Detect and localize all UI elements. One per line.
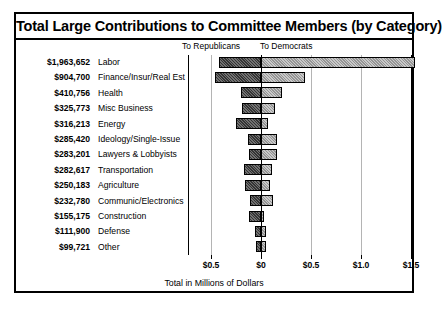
bar-segment-democrats[interactable]: [261, 241, 266, 252]
bar-row[interactable]: [188, 209, 412, 224]
bar-row[interactable]: [188, 55, 412, 70]
bar-segment-democrats[interactable]: [261, 72, 305, 83]
category-total-value: $232,780: [16, 194, 90, 209]
bar-segment-democrats[interactable]: [261, 149, 277, 160]
category-total-value: $325,773: [16, 101, 90, 116]
category-row: $410,756Health: [16, 86, 188, 101]
axis-tick: [411, 255, 412, 259]
bar-segment-democrats[interactable]: [261, 164, 272, 175]
bar-row[interactable]: [188, 132, 412, 147]
category-total-value: $99,721: [16, 240, 90, 255]
chart-frame: Total Large Contributions to Committee M…: [14, 12, 414, 293]
bar-segment-republicans[interactable]: [242, 103, 261, 114]
category-label: Transportation: [98, 163, 153, 178]
plot-area: $1,963,652Labor$904,700Finance/Insur/Rea…: [16, 55, 412, 255]
bar-segment-democrats[interactable]: [261, 118, 268, 129]
bars-canvas: [188, 55, 412, 255]
bar-row[interactable]: [188, 163, 412, 178]
category-label: Energy: [98, 117, 125, 132]
category-label: Labor: [98, 55, 120, 70]
axis-tick: [211, 255, 212, 259]
category-total-value: $282,617: [16, 163, 90, 178]
category-label: Health: [98, 86, 123, 101]
x-axis: $0.5$0$0.5$1.0$1.5: [188, 255, 412, 277]
bar-segment-democrats[interactable]: [261, 103, 275, 114]
category-total-value: $410,756: [16, 86, 90, 101]
category-label: Agriculture: [98, 178, 139, 193]
category-total-value: $155,175: [16, 209, 90, 224]
category-row: $1,963,652Labor: [16, 55, 188, 70]
category-row: $99,721Other: [16, 240, 188, 255]
category-total-value: $904,700: [16, 70, 90, 85]
bar-row[interactable]: [188, 194, 412, 209]
category-total-value: $111,900: [16, 224, 90, 239]
category-label: Communic/Electronics: [98, 194, 183, 209]
category-total-value: $316,213: [16, 117, 90, 132]
bar-segment-democrats[interactable]: [261, 57, 415, 68]
column-header-democrats: To Democrats: [260, 41, 312, 51]
bar-segment-republicans[interactable]: [241, 87, 261, 98]
bar-segment-democrats[interactable]: [261, 211, 264, 222]
bar-segment-republicans[interactable]: [249, 149, 261, 160]
category-label: Lawyers & Lobbyists: [98, 147, 177, 162]
axis-tick: [311, 255, 312, 259]
bar-row[interactable]: [188, 117, 412, 132]
bar-segment-democrats[interactable]: [261, 195, 273, 206]
axis-tick-label: $1.0: [341, 260, 381, 270]
category-label: Construction: [98, 209, 146, 224]
axis-tick-label: $0.5: [291, 260, 331, 270]
category-row: $285,420Ideology/Single-Issue: [16, 132, 188, 147]
category-row: $232,780Communic/Electronics: [16, 194, 188, 209]
bar-segment-republicans[interactable]: [244, 164, 261, 175]
axis-tick-label: $0.5: [191, 260, 231, 270]
bar-row[interactable]: [188, 224, 412, 239]
category-row: $904,700Finance/Insur/Real Est: [16, 70, 188, 85]
bar-segment-republicans[interactable]: [236, 118, 261, 129]
bar-segment-republicans[interactable]: [249, 211, 261, 222]
category-label: Finance/Insur/Real Est: [98, 70, 185, 85]
category-row: $316,213Energy: [16, 117, 188, 132]
category-label: Defense: [98, 224, 130, 239]
category-label-column: $1,963,652Labor$904,700Finance/Insur/Rea…: [16, 55, 188, 255]
bar-row[interactable]: [188, 240, 412, 255]
bar-row[interactable]: [188, 178, 412, 193]
axis-tick: [361, 255, 362, 259]
bar-segment-republicans[interactable]: [215, 72, 261, 83]
title-divider: [16, 38, 412, 40]
column-header-republicans: To Republicans: [182, 41, 240, 51]
chart-title: Total Large Contributions to Committee M…: [16, 14, 412, 38]
bar-segment-democrats[interactable]: [261, 226, 266, 237]
bar-segment-republicans[interactable]: [248, 134, 261, 145]
bar-segment-democrats[interactable]: [261, 180, 270, 191]
bar-segment-democrats[interactable]: [261, 134, 277, 145]
category-label: Ideology/Single-Issue: [98, 132, 180, 147]
bar-segment-democrats[interactable]: [261, 87, 282, 98]
category-row: $325,773Misc Business: [16, 101, 188, 116]
category-total-value: $250,183: [16, 178, 90, 193]
bar-row[interactable]: [188, 70, 412, 85]
category-total-value: $1,963,652: [16, 55, 90, 70]
category-row: $283,201Lawyers & Lobbyists: [16, 147, 188, 162]
category-total-value: $285,420: [16, 132, 90, 147]
bar-segment-republicans[interactable]: [219, 57, 261, 68]
bar-row[interactable]: [188, 101, 412, 116]
category-row: $282,617Transportation: [16, 163, 188, 178]
axis-tick: [261, 255, 262, 259]
bar-row[interactable]: [188, 86, 412, 101]
axis-tick-label: $1.5: [391, 260, 431, 270]
category-total-value: $283,201: [16, 147, 90, 162]
bar-segment-republicans[interactable]: [250, 195, 261, 206]
category-row: $250,183Agriculture: [16, 178, 188, 193]
category-row: $155,175Construction: [16, 209, 188, 224]
bar-segment-republicans[interactable]: [245, 180, 261, 191]
category-label: Other: [98, 240, 120, 255]
category-label: Misc Business: [98, 101, 153, 116]
axis-tick-label: $0: [241, 260, 281, 270]
bar-row[interactable]: [188, 147, 412, 162]
x-axis-title: Total in Millions of Dollars: [16, 278, 412, 288]
category-row: $111,900Defense: [16, 224, 188, 239]
